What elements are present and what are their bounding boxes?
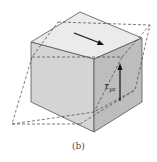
figure-caption: (b) bbox=[0, 141, 157, 151]
shear-cube-diagram: τyz bbox=[0, 0, 157, 162]
